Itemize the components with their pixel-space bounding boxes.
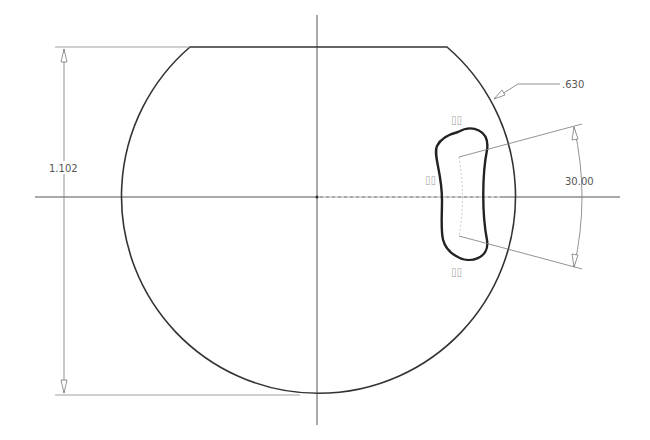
height-dimension-label[interactable]: 1.102 bbox=[49, 163, 78, 174]
part-profile[interactable] bbox=[122, 47, 516, 393]
arrow-down-icon bbox=[61, 380, 67, 393]
constraint-icon-left[interactable]: ⌷⌷ bbox=[425, 176, 436, 186]
constraint-icon-bottom[interactable]: ⌷⌷ bbox=[451, 268, 462, 278]
leader-arrow-icon bbox=[494, 90, 505, 99]
radius-dimension-label[interactable]: .630 bbox=[562, 79, 584, 90]
angle-arrow-bottom-icon bbox=[572, 254, 578, 267]
constraint-icon-top[interactable]: ⌷⌷ bbox=[451, 116, 462, 126]
angle-extension-bottom bbox=[459, 236, 582, 269]
sketch-canvas[interactable]: 1.102 .630 30.00 ⌷⌷ ⌷⌷ ⌷⌷ bbox=[0, 0, 650, 440]
origin-point[interactable] bbox=[316, 196, 319, 199]
angle-dimension-label[interactable]: 30.00 bbox=[565, 176, 594, 187]
angle-arrow-top-icon bbox=[572, 127, 578, 140]
kidney-slot[interactable] bbox=[436, 129, 487, 260]
radius-leader bbox=[494, 84, 560, 99]
arrow-up-icon bbox=[61, 49, 67, 62]
